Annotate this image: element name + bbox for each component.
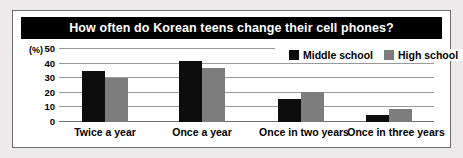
bar — [179, 61, 202, 122]
y-tick-label-10: 10 — [44, 103, 55, 113]
chart-frame: How often do Korean teens change their c… — [12, 10, 451, 148]
bar-group — [179, 49, 225, 122]
legend-item: High school — [384, 49, 458, 61]
bar-group — [82, 49, 128, 122]
x-tick-label: Once in two years — [259, 125, 349, 139]
chart-legend: Middle schoolHigh school — [285, 49, 463, 61]
legend-item: Middle school — [289, 49, 373, 61]
x-tick-label: Once a year — [172, 125, 232, 139]
y-tick-label-50: 50 — [44, 44, 55, 54]
y-tick-label-30: 30 — [44, 73, 55, 83]
y-axis-tick-labels: 01020304050 — [31, 49, 55, 122]
black-square-icon — [289, 50, 299, 60]
legend-label: Middle school — [303, 49, 373, 61]
chart-figure: How often do Korean teens change their c… — [0, 0, 463, 158]
bar — [82, 71, 105, 122]
legend-label: High school — [398, 49, 458, 61]
bar — [301, 92, 324, 122]
x-tick-label: Twice a year — [74, 125, 136, 139]
bar — [202, 68, 225, 122]
x-axis-tick-labels: Twice a yearOnce a yearOnce in two years… — [59, 125, 459, 141]
y-tick-label-20: 20 — [44, 88, 55, 98]
y-tick-label-40: 40 — [44, 59, 55, 69]
x-tick-label: Once in three years — [347, 125, 444, 139]
bar — [366, 115, 389, 122]
y-tick-label-0: 0 — [50, 117, 55, 127]
bar — [105, 78, 128, 122]
bar — [278, 99, 301, 122]
bar — [389, 109, 412, 122]
gray-square-icon — [384, 50, 394, 60]
chart-title: How often do Korean teens change their c… — [21, 17, 442, 39]
